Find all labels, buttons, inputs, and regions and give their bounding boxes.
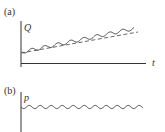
panel-a-oscillating-curve — [22, 27, 134, 53]
panel-a-y-label: Q — [24, 22, 32, 33]
figure: (a) Q t (b) p — [0, 0, 165, 132]
panel-b-label: (b) — [4, 85, 16, 97]
panel-b-oscillating-curve — [21, 105, 143, 108]
panel-a-label: (a) — [4, 6, 15, 18]
panel-b: (b) p — [4, 85, 143, 132]
panel-a: (a) Q t — [4, 6, 155, 68]
panel-a-x-label: t — [152, 57, 155, 68]
panel-b-y-label: p — [23, 92, 29, 103]
